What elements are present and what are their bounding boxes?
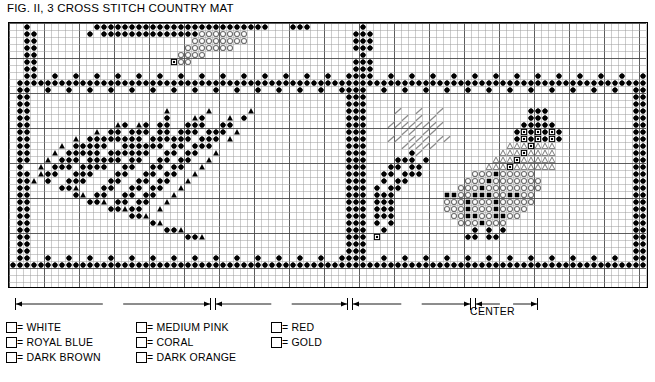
figure-title: FIG. II, 3 CROSS STITCH COUNTRY MAT xyxy=(7,2,234,14)
legend-label: = MEDIUM PINK xyxy=(147,321,229,333)
legend-item-medium-pink: = MEDIUM PINK xyxy=(136,320,236,334)
diamond-icon xyxy=(6,352,17,363)
legend-label: = GOLD xyxy=(282,336,322,348)
legend-column-3: = RED = GOLD xyxy=(271,320,322,350)
center-label: CENTER xyxy=(470,305,515,317)
cross-stitch-chart xyxy=(8,22,648,288)
legend-label: = DARK BROWN xyxy=(17,351,101,363)
legend-item-white: = WHITE xyxy=(6,320,101,334)
chart-grid xyxy=(9,23,647,287)
legend-item-red: = RED xyxy=(271,320,322,334)
legend-item-coral: = CORAL xyxy=(136,335,236,349)
circle-dot-icon xyxy=(6,322,17,333)
triangle-filled-icon xyxy=(271,322,282,333)
legend-column-1: = WHITE = ROYAL BLUE = DARK BROWN xyxy=(6,320,101,365)
legend-item-dark-orange: = DARK ORANGE xyxy=(136,350,236,364)
dash-icon xyxy=(271,337,282,348)
legend-label: = WHITE xyxy=(17,321,61,333)
triangle-open-icon xyxy=(136,337,147,348)
legend-column-2: = MEDIUM PINK = CORAL = DARK ORANGE xyxy=(136,320,236,365)
measurement-ruler xyxy=(8,288,648,318)
legend-item-dark-brown: = DARK BROWN xyxy=(6,350,101,364)
legend-item-royal-blue: = ROYAL BLUE xyxy=(6,335,101,349)
legend-label: = DARK ORANGE xyxy=(147,351,236,363)
legend-item-gold: = GOLD xyxy=(271,335,322,349)
square-dot-icon xyxy=(136,322,147,333)
legend-label: = ROYAL BLUE xyxy=(17,336,93,348)
legend-label: = RED xyxy=(282,321,314,333)
filled-square-icon xyxy=(6,337,17,348)
circle-open-icon xyxy=(136,352,147,363)
legend-label: = CORAL xyxy=(147,336,194,348)
